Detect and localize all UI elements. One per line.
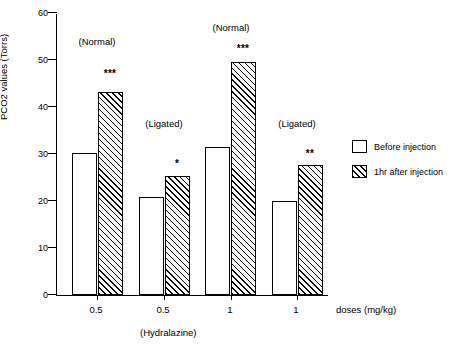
bar-before-1 [72,153,97,295]
y-tick-40 [48,106,57,107]
bar-after-1 [98,92,123,295]
legend-swatch-hatched [352,165,367,178]
bar-after-4 [298,165,323,295]
y-tick-60 [48,12,57,13]
plot-area: (Normal) (Ligated) (Normal) (Ligated) **… [57,14,328,295]
y-tick-label-10: 10 [26,244,48,253]
y-axis-title-text: PCO2 values (Torrs) [0,34,9,120]
x-tick-label-2: 0.5 [141,304,185,315]
chart-container: PCO2 values (Torrs) 0 10 20 30 40 50 60 [0,0,466,352]
y-tick-label-0: 0 [26,291,48,300]
significance-marker-3: *** [221,43,265,54]
group-annotation-1: (Normal) [55,36,139,47]
y-tick-50 [48,59,57,60]
legend-item-after-injection: 1hr after injection [352,165,464,178]
y-tick-label-20: 20 [26,197,48,206]
x-tick-4 [297,295,298,300]
bar-after-3 [231,62,256,295]
x-tick-2 [164,295,165,300]
bar-before-2 [139,197,164,295]
bar-before-3 [205,147,230,295]
y-tick-label-50: 50 [26,56,48,65]
significance-marker-4: ** [288,148,332,159]
x-tick-label-3: 1 [208,304,252,315]
x-axis-unit-label: doses (mg/kg) [336,304,396,315]
legend-label-after-injection: 1hr after injection [374,167,443,177]
x-tick-3 [231,295,232,300]
y-tick-20 [48,200,57,201]
group-annotation-4: (Ligated) [255,118,339,129]
legend: Before injection 1hr after injection [352,140,464,190]
y-tick-10 [48,247,57,248]
legend-label-before-injection: Before injection [374,142,436,152]
group-annotation-3: (Normal) [189,22,273,33]
significance-marker-1: *** [88,68,132,79]
group-annotation-2: (Ligated) [122,118,206,129]
x-tick-1 [97,295,98,300]
significance-marker-2: * [155,158,199,169]
y-tick-30 [48,153,57,154]
bar-before-4 [272,201,297,295]
x-tick-label-1: 0.5 [74,304,118,315]
plot-frame: (Normal) (Ligated) (Normal) (Ligated) **… [56,14,328,296]
x-tick-label-4: 1 [274,304,318,315]
y-tick-label-40: 40 [26,103,48,112]
y-tick-label-30: 30 [26,150,48,159]
y-tick-0 [48,294,57,295]
y-axis-title: PCO2 values (Torrs) [0,0,9,120]
y-tick-label-60: 60 [26,9,48,18]
bar-after-2 [165,176,190,295]
legend-item-before-injection: Before injection [352,140,464,153]
legend-swatch-open [352,140,367,153]
x-axis-title: (Hydralazine) [140,327,197,338]
